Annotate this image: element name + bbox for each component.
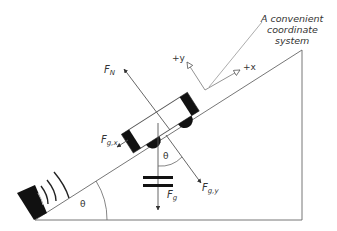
- gravity-x-component-arrow: [117, 140, 128, 147]
- inclined-plane-diagram: θ +y +x A convenient coordinate system F…: [0, 0, 337, 231]
- normal-force-label: FN: [104, 64, 116, 77]
- annotation-line2: coordinate: [267, 24, 318, 35]
- gravity-force-label: Fg: [167, 189, 178, 202]
- normal-force-arrow: [124, 69, 170, 130]
- car-on-incline: [122, 92, 204, 159]
- gravity-y-component-label: Fg,y: [202, 182, 219, 195]
- incline-angle-label: θ: [80, 199, 86, 209]
- plus-x-label: +x: [243, 62, 257, 72]
- coordinate-system: [187, 22, 262, 90]
- incline-angle-arc: [96, 181, 107, 220]
- force-angle-label: θ: [163, 151, 169, 161]
- plus-y-label: +y: [172, 53, 186, 63]
- speaker-icon: [17, 172, 69, 220]
- gravity-x-component-label: Fg,x: [101, 134, 118, 147]
- gravity-y-component-arrow: [166, 135, 201, 183]
- force-angle-arc: [158, 157, 182, 166]
- annotation-line1: A convenient: [260, 13, 325, 24]
- annotation-line3: system: [275, 35, 309, 46]
